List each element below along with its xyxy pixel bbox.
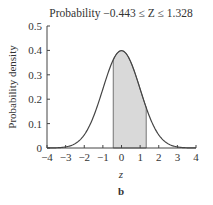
x-tick-label: 1: [137, 151, 143, 163]
x-tick-label: 3: [175, 151, 181, 163]
y-tick-label: 0.2: [28, 93, 42, 105]
y-tick-label: 0.3: [28, 69, 42, 81]
x-axis-label: z: [118, 168, 124, 180]
x-tick-label: −1: [97, 151, 109, 163]
y-tick-label: 0.5: [28, 20, 42, 32]
x-tick-label: 2: [156, 151, 162, 163]
x-tick-label: −3: [60, 151, 72, 163]
x-tick-label: 0: [119, 151, 125, 163]
panel-label: b: [118, 185, 124, 197]
y-tick-label: 0.1: [28, 118, 42, 130]
chart-title: Probability −0.443 ≤ Z ≤ 1.328: [49, 7, 193, 20]
shaded-area: [113, 51, 146, 148]
x-tick-label: 4: [193, 151, 199, 163]
x-tick-label: −4: [41, 151, 53, 163]
shaded-probability-region: [113, 51, 146, 148]
y-tick-label: 0.4: [28, 44, 42, 56]
y-axis-label: Probability density: [6, 45, 18, 129]
normal-distribution-chart: Probability −0.443 ≤ Z ≤ 1.328 00.10.20.…: [0, 0, 213, 205]
x-tick-label: −2: [78, 151, 90, 163]
